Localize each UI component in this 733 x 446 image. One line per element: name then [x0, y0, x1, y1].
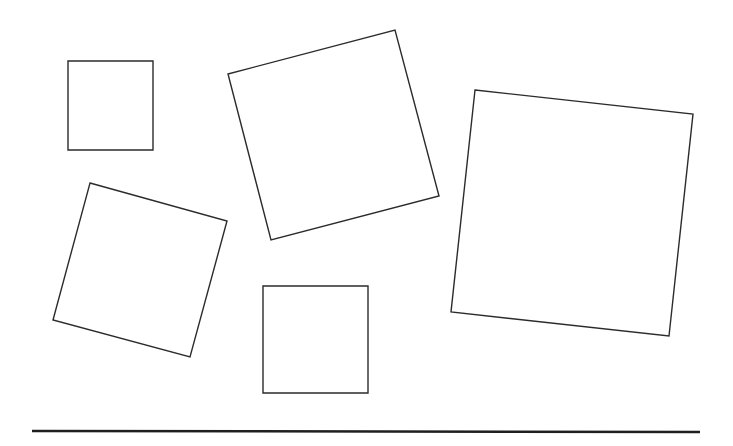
- diagram-canvas: [0, 0, 733, 446]
- square-tilted-bottom-left: [53, 183, 227, 357]
- square-small-bottom-center: [263, 286, 368, 393]
- square-tilted-top-center: [228, 30, 439, 240]
- baseline-line: [32, 431, 700, 432]
- square-small-top-left: [68, 61, 153, 150]
- square-large-right: [451, 90, 693, 336]
